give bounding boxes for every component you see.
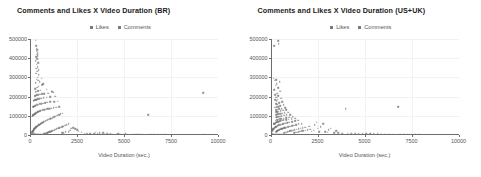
scatter-point: [50, 107, 52, 109]
y-tick-mark: [28, 116, 30, 117]
scatter-point: [46, 89, 48, 91]
scatter-point: [277, 87, 279, 89]
scatter-point: [37, 90, 39, 92]
x-tick-label: 10000: [451, 138, 466, 144]
y-tick-mark: [28, 58, 30, 59]
legend-item-comments[interactable]: Comments: [358, 24, 391, 30]
scatter-point: [36, 87, 38, 89]
scatter-point: [35, 45, 37, 47]
scatter-point: [336, 130, 338, 132]
scatter-point: [48, 108, 50, 110]
figure-root: Comments and Likes X Video Duration (BR)…: [0, 0, 481, 177]
scatter-point: [39, 81, 41, 83]
scatter-point: [37, 58, 39, 60]
scatter-point: [53, 116, 55, 118]
scatter-point: [43, 93, 45, 95]
scatter-point: [274, 80, 276, 82]
scatter-point: [53, 101, 55, 103]
scatter-point: [52, 92, 54, 94]
scatter-point: [44, 102, 46, 104]
scatter-point: [300, 128, 302, 130]
scatter-canvas-br: [30, 39, 218, 135]
scatter-point: [47, 102, 49, 104]
x-tick-label: 2500: [71, 138, 83, 144]
scatter-point: [66, 124, 68, 126]
scatter-point: [40, 89, 42, 91]
scatter-point: [292, 129, 294, 131]
x-tick-label: 7500: [406, 138, 418, 144]
scatter-point: [37, 66, 39, 68]
y-tick-label: 400000: [250, 55, 268, 61]
x-tick-mark: [318, 135, 319, 137]
chart-panel-usuk: Comments and Likes X Video Duration (US+…: [241, 0, 481, 177]
scatter-point: [291, 130, 293, 132]
scatter-point: [56, 107, 58, 109]
gridline-vertical: [171, 39, 172, 135]
legend-item-likes[interactable]: Likes: [330, 24, 349, 30]
scatter-point: [60, 113, 62, 115]
scatter-canvas-usuk: [271, 39, 459, 135]
scatter-point: [298, 123, 300, 125]
legend-item-likes[interactable]: Likes: [90, 24, 109, 30]
scatter-point: [46, 97, 48, 99]
scatter-point: [289, 125, 291, 127]
scatter-point: [284, 123, 286, 125]
x-tick-label: 5000: [118, 138, 130, 144]
scatter-point: [345, 108, 347, 110]
x-tick-mark: [171, 135, 172, 137]
scatter-point: [274, 94, 276, 96]
scatter-point: [35, 91, 37, 93]
y-axis-usuk: [271, 39, 272, 135]
scatter-point: [41, 77, 43, 79]
x-tick-label: 0: [29, 138, 32, 144]
scatter-point: [281, 120, 283, 122]
y-tick-mark: [269, 116, 271, 117]
square-marker-icon: [118, 26, 121, 29]
legend-item-comments[interactable]: Comments: [118, 24, 151, 30]
scatter-point: [62, 112, 64, 114]
scatter-point: [289, 121, 291, 123]
scatter-point: [38, 74, 40, 76]
scatter-point: [35, 67, 37, 69]
scatter-point: [271, 130, 273, 132]
scatter-point: [279, 90, 281, 92]
y-tick-mark: [269, 97, 271, 98]
scatter-point: [40, 103, 42, 105]
scatter-point: [295, 117, 297, 119]
gridline-vertical: [318, 39, 319, 135]
scatter-point: [294, 120, 296, 122]
scatter-point: [324, 131, 326, 133]
scatter-point: [38, 69, 40, 71]
legend-br: Likes Comments: [0, 24, 241, 30]
x-tick-label: 0: [269, 138, 272, 144]
scatter-point: [296, 131, 298, 133]
scatter-point: [55, 96, 57, 98]
scatter-point: [81, 132, 83, 134]
y-axis-br: [30, 39, 31, 135]
scatter-point: [273, 123, 275, 125]
scatter-point: [95, 131, 97, 133]
scatter-point: [39, 98, 41, 100]
y-tick-mark: [28, 77, 30, 78]
scatter-point: [298, 120, 300, 122]
scatter-point: [291, 121, 293, 123]
scatter-point: [50, 101, 52, 103]
scatter-point: [281, 101, 283, 103]
scatter-point: [35, 40, 37, 42]
y-tick-mark: [269, 58, 271, 59]
scatter-point: [41, 84, 43, 86]
scatter-point: [55, 115, 57, 117]
scatter-point: [303, 130, 305, 132]
scatter-point: [40, 97, 42, 99]
x-tick-mark: [365, 135, 366, 137]
scatter-point: [48, 92, 50, 94]
x-tick-label: 7500: [165, 138, 177, 144]
scatter-point: [274, 89, 276, 91]
scatter-point: [286, 126, 288, 128]
scatter-point: [299, 131, 301, 133]
scatter-point: [288, 118, 290, 120]
scatter-point: [328, 129, 330, 131]
scatter-point: [285, 119, 287, 121]
scatter-point: [398, 106, 400, 108]
scatter-point: [276, 92, 278, 94]
